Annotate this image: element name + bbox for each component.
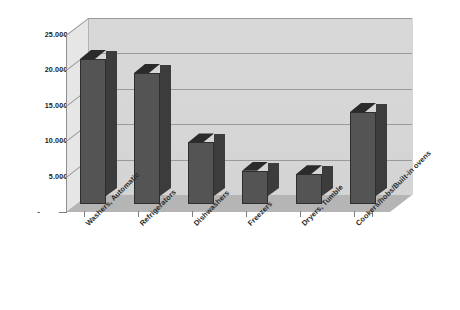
bar-front-face: [80, 59, 106, 204]
bar-front-face: [134, 73, 160, 204]
x-axis-tick-end: [372, 211, 373, 217]
bar-side-face: [106, 51, 117, 196]
bar: [188, 142, 214, 204]
bar: [296, 174, 322, 204]
x-axis-tick: [138, 211, 139, 217]
bar-front-face: [188, 142, 214, 204]
bar-side-face: [160, 65, 171, 196]
x-axis-tick: [300, 211, 301, 217]
bar-chart: -5.000,0010.000,0015.000,0020.000,0025.0…: [0, 0, 460, 310]
plot-area: [66, 18, 412, 212]
y-axis-line: [66, 35, 67, 212]
x-axis-tick: [354, 211, 355, 217]
gridline: [88, 18, 412, 19]
y-axis-zero-label: -: [37, 208, 40, 216]
y-axis-tick: [59, 35, 67, 36]
bar-front-face: [350, 112, 376, 204]
bar-front-face: [242, 171, 268, 204]
y-axis-tick: [59, 177, 67, 178]
bar: [80, 59, 106, 204]
x-axis-tick: [246, 211, 247, 217]
bar-side-face: [376, 104, 387, 196]
bar-side-face: [214, 134, 225, 196]
y-axis-tick: [59, 106, 67, 107]
bar: [242, 171, 268, 204]
gridline: [88, 53, 412, 54]
x-axis-tick: [84, 211, 85, 217]
x-axis-tick: [192, 211, 193, 217]
bar: [134, 73, 160, 204]
bar-front-face: [296, 174, 322, 204]
y-axis-tick: [59, 70, 67, 71]
x-axis-tick-marks: [66, 211, 412, 217]
bar: [350, 112, 376, 204]
y-axis-tick: [59, 141, 67, 142]
